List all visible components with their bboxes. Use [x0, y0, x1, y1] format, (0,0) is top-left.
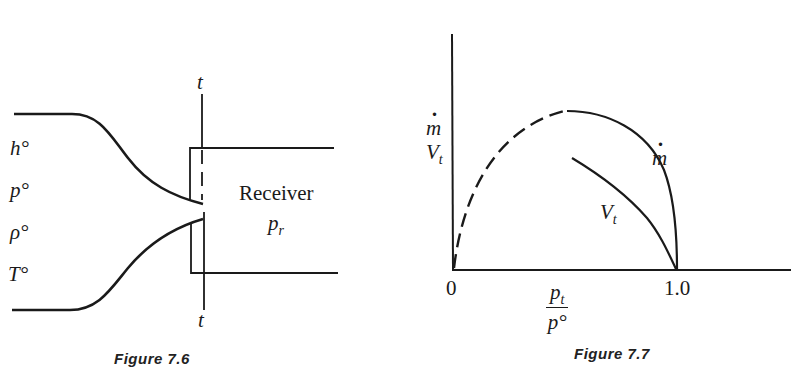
nozzle-upper-wall — [14, 114, 203, 204]
mdot-curve-label: m — [652, 148, 667, 169]
mass-flow-chart — [402, 0, 804, 380]
x-tick-0: 0 — [446, 278, 457, 299]
receiver-pressure-base: p — [268, 211, 279, 235]
figure-7-6-caption: Figure 7.6 — [114, 350, 190, 367]
mdot-curve-dashed — [454, 111, 564, 268]
y-axis-vt-label: Vt — [426, 142, 443, 163]
receiver-lower-wall — [191, 224, 338, 273]
y-axis-mdot-label: m — [426, 118, 441, 139]
throat-label-top: t — [197, 72, 203, 93]
y-axis-vt-sub: t — [439, 152, 443, 167]
x-axis-numerator-sub: t — [561, 292, 565, 307]
vt-curve-sub: t — [613, 212, 617, 227]
receiver-label: Receiver — [239, 183, 314, 204]
stagnation-density-label: ρ° — [10, 222, 28, 243]
x-axis-label: pt p° — [546, 280, 568, 335]
mdot-curve-text: m — [652, 148, 667, 169]
y-axis-vt-base: V — [426, 140, 439, 164]
y-axis-mdot-text: m — [426, 118, 441, 139]
x-axis-denominator: p° — [546, 308, 568, 335]
throat-label-bottom: t — [198, 310, 204, 331]
x-axis-numerator-base: p — [550, 280, 561, 304]
figure-7-7: m Vt m Vt 0 1.0 pt p° Figure 7.7 — [402, 0, 804, 380]
nozzle-lower-wall — [12, 219, 203, 310]
receiver-pressure-label: pr — [268, 213, 284, 234]
stagnation-pressure-label: p° — [10, 180, 29, 201]
vt-curve-label: Vt — [600, 202, 617, 223]
figure-7-7-caption: Figure 7.7 — [574, 345, 650, 362]
x-tick-1: 1.0 — [664, 278, 690, 299]
stagnation-temperature-label: T° — [8, 264, 28, 285]
y-axis — [452, 34, 453, 270]
receiver-pressure-sub: r — [279, 223, 284, 238]
figure-7-6: h° p° ρ° T° t t Receiver pr Figure 7.6 — [0, 0, 402, 380]
vt-curve-base: V — [600, 200, 613, 224]
x-axis-numerator: pt — [546, 280, 568, 308]
stagnation-enthalpy-label: h° — [10, 138, 29, 159]
vt-curve — [572, 158, 676, 269]
